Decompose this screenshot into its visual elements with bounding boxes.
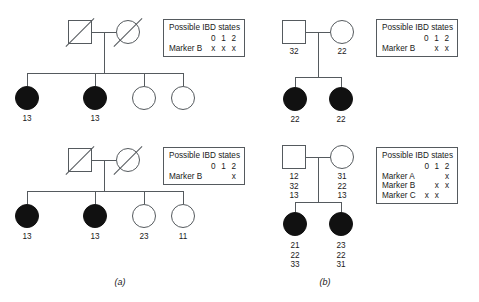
- ibd-header-spacer: [382, 34, 421, 44]
- ibd-state-cell: x: [218, 44, 228, 54]
- ibd-column-header: 0: [422, 162, 432, 172]
- ibd-state-cell: x: [442, 181, 452, 191]
- ibd-states-box: Possible IBD states 0 1 2 Marker B x: [163, 147, 245, 185]
- ibd-state-cell: x: [431, 44, 441, 54]
- ibd-state-cell: x: [432, 181, 442, 191]
- ibd-table: 0 1 2 Marker A x Marker B x x: [382, 162, 452, 200]
- father-symbol: [282, 145, 306, 169]
- ibd-marker-label: Marker A: [382, 172, 422, 182]
- child-symbol: [15, 204, 39, 228]
- ibd-states-box: Possible IBD states 0 1 2 Marker B x x x: [163, 19, 245, 57]
- ibd-column-header: 2: [442, 162, 452, 172]
- ibd-marker-label: Marker B: [169, 172, 208, 182]
- sibship-line: [295, 202, 341, 203]
- ibd-header-spacer: [169, 162, 208, 172]
- mother-symbol: [330, 145, 354, 169]
- mother-genotype: 31 22 13: [322, 172, 362, 201]
- ibd-column-header: 1: [431, 34, 441, 44]
- child-symbol: [283, 87, 307, 111]
- ibd-marker-row: Marker B x x x: [169, 44, 239, 54]
- ibd-state-cell: [218, 172, 228, 182]
- father-genotype: 32: [274, 47, 314, 57]
- ibd-marker-label: Marker B: [382, 44, 421, 54]
- child-symbol: [283, 212, 307, 236]
- ibd-state-cell: x: [229, 44, 239, 54]
- child-drop-line: [341, 77, 342, 87]
- panel-caption-a: (a): [100, 277, 140, 287]
- ibd-column-header: 1: [432, 162, 442, 172]
- child-genotype: 11: [163, 232, 203, 242]
- mother-symbol: [330, 20, 354, 44]
- ibd-states-box: Possible IBD states 0 1 2 Marker B x x: [376, 19, 458, 57]
- child-genotype: 23 22 31: [321, 241, 361, 270]
- child-genotype: 13: [75, 114, 115, 124]
- child-symbol: [83, 86, 107, 110]
- ibd-state-cell: x: [442, 172, 452, 182]
- child-genotype: 22: [275, 115, 315, 125]
- child-genotype: 21 22 33: [275, 241, 315, 270]
- descent-line: [318, 32, 319, 77]
- ibd-state-cell: x: [442, 44, 452, 54]
- child-genotype: 22: [321, 115, 361, 125]
- child-symbol: [15, 86, 39, 110]
- child-drop-line: [27, 191, 28, 204]
- ibd-column-header: 0: [208, 34, 218, 44]
- ibd-header-row: 0 1 2: [169, 162, 239, 172]
- ibd-column-header: 2: [229, 34, 239, 44]
- ibd-column-header: 2: [442, 34, 452, 44]
- child-symbol: [171, 86, 195, 110]
- child-drop-line: [183, 73, 184, 86]
- ibd-table: 0 1 2 Marker B x x x: [169, 34, 239, 53]
- panel-caption-b: (b): [305, 277, 345, 287]
- child-symbol: [83, 204, 107, 228]
- father-symbol: [282, 20, 306, 44]
- father-genotype: 12 32 13: [274, 172, 314, 201]
- ibd-header-row: 0 1 2: [382, 162, 452, 172]
- ibd-marker-label: Marker B: [169, 44, 208, 54]
- ibd-state-cell: [422, 172, 432, 182]
- ibd-header-row: 0 1 2: [169, 34, 239, 44]
- sibship-line: [27, 191, 183, 192]
- ibd-state-cell: [421, 44, 431, 54]
- ibd-box-title: Possible IBD states: [382, 23, 452, 33]
- child-symbol: [329, 212, 353, 236]
- ibd-table: 0 1 2 Marker B x: [169, 162, 239, 181]
- ibd-marker-row: Marker C x x: [382, 191, 452, 201]
- child-drop-line: [295, 77, 296, 87]
- child-drop-line: [183, 191, 184, 204]
- ibd-marker-row: Marker B x x: [382, 181, 452, 191]
- ibd-box-title: Possible IBD states: [169, 23, 239, 33]
- ibd-marker-label: Marker C: [382, 191, 422, 201]
- ibd-column-header: 0: [208, 162, 218, 172]
- ibd-state-cell: [442, 191, 452, 201]
- ibd-column-header: 2: [229, 162, 239, 172]
- sibship-line: [295, 77, 341, 78]
- child-drop-line: [144, 73, 145, 86]
- sibship-line: [27, 73, 183, 74]
- child-drop-line: [341, 202, 342, 212]
- child-drop-line: [27, 73, 28, 86]
- ibd-header-spacer: [382, 162, 422, 172]
- ibd-marker-row: Marker A x: [382, 172, 452, 182]
- child-symbol: [171, 204, 195, 228]
- ibd-state-cell: x: [422, 191, 432, 201]
- ibd-column-header: 0: [421, 34, 431, 44]
- ibd-header-row: 0 1 2: [382, 34, 452, 44]
- ibd-table: 0 1 2 Marker B x x: [382, 34, 452, 53]
- child-genotype: 13: [7, 114, 47, 124]
- child-symbol: [132, 204, 156, 228]
- child-symbol: [329, 87, 353, 111]
- child-drop-line: [295, 202, 296, 212]
- ibd-marker-row: Marker B x: [169, 172, 239, 182]
- ibd-column-header: 1: [218, 162, 228, 172]
- ibd-state-cell: x: [229, 172, 239, 182]
- child-genotype: 23: [124, 232, 164, 242]
- pedigree-figure: 13 13 Possible IBD states 0 1 2 Marker B…: [0, 0, 479, 302]
- ibd-header-spacer: [169, 34, 208, 44]
- ibd-column-header: 1: [218, 34, 228, 44]
- ibd-states-box: Possible IBD states 0 1 2 Marker A x: [376, 147, 458, 204]
- child-drop-line: [95, 191, 96, 204]
- ibd-state-cell: [422, 181, 432, 191]
- child-genotype: 13: [7, 232, 47, 242]
- descent-line: [104, 32, 105, 73]
